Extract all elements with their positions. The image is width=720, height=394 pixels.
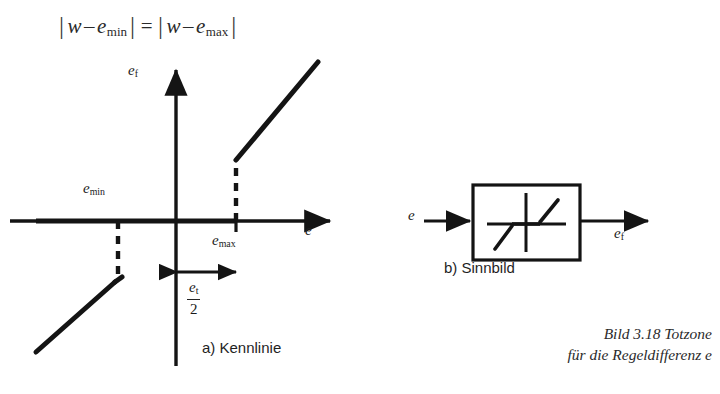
- subfigure-b-caption: b) Sinnbild: [444, 259, 515, 276]
- tick-label-emin-sub: min: [90, 186, 105, 197]
- deadband-numerator-sub: t: [196, 285, 199, 296]
- plot-axes: [10, 70, 330, 366]
- tick-label-emin: emin: [83, 180, 105, 197]
- symbol-upper-branch: [540, 200, 558, 222]
- block-diagram: [424, 185, 648, 260]
- block-output-label-sub: f: [621, 231, 624, 242]
- block-output-label-base: e: [614, 225, 621, 241]
- tick-label-emax-sub: max: [219, 238, 236, 249]
- tick-label-emax: emax: [212, 232, 236, 249]
- deadband-fraction-label: et 2: [187, 280, 200, 318]
- y-axis-label-base: e: [128, 62, 135, 78]
- figure-page: |w–emin|=|w–emax|: [0, 0, 720, 394]
- block-input-label: e: [408, 207, 415, 224]
- figure-caption: Bild 3.18 Totzone für die Regeldifferenz…: [536, 324, 712, 366]
- dead-zone-symbol: [487, 193, 566, 252]
- tick-label-emax-base: e: [212, 232, 219, 248]
- deadband-numerator-base: e: [189, 279, 196, 295]
- symbol-lower-branch: [495, 226, 512, 249]
- curve-lower-branch: [36, 282, 115, 352]
- deadband-denominator: 2: [187, 301, 200, 318]
- deadband-numerator: et: [187, 280, 200, 298]
- block-output-label: ef: [614, 225, 624, 242]
- curve-upper-branch: [236, 62, 318, 160]
- figure-caption-line-1: Bild 3.18 Totzone: [536, 324, 712, 345]
- y-axis-label: ef: [128, 62, 138, 79]
- figure-caption-line-2: für die Regeldifferenz e: [536, 345, 712, 366]
- y-axis-label-sub: f: [135, 68, 138, 79]
- fraction-rule: [187, 299, 200, 301]
- subfigure-a-caption: a) Kennlinie: [202, 339, 281, 356]
- tick-label-emin-base: e: [83, 180, 90, 196]
- curve-lower-knee: [115, 277, 122, 282]
- x-axis-label: e: [305, 222, 312, 239]
